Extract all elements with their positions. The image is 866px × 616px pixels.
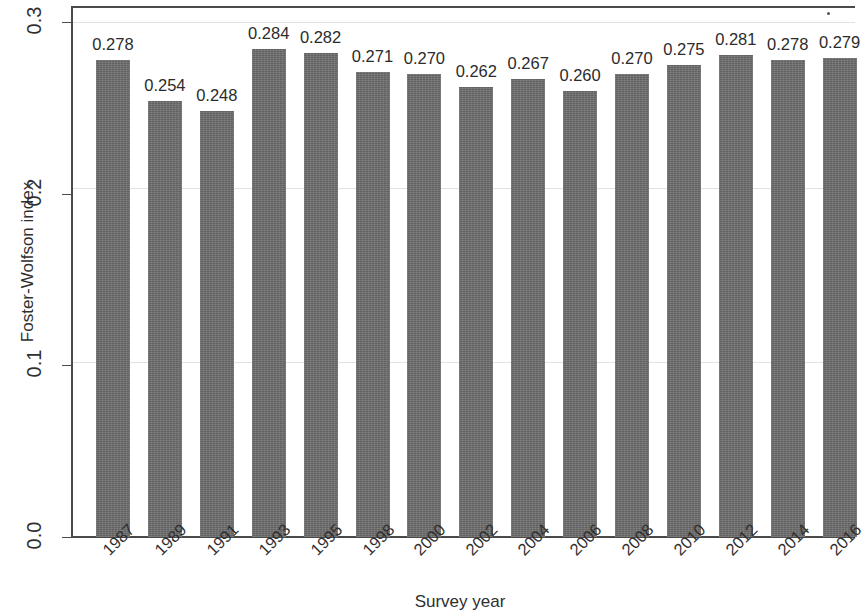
bar-1987 xyxy=(96,60,130,537)
bar-2004 xyxy=(511,79,545,537)
y-tick-0.0 xyxy=(62,537,71,538)
bar-1998 xyxy=(356,72,390,537)
y-tick-label-0.0: 0.0 xyxy=(23,518,46,554)
x-axis-title: Survey year xyxy=(360,592,560,612)
bar-value-label-2006: 0.260 xyxy=(545,66,615,85)
bar-2000 xyxy=(407,74,441,538)
bar-1995 xyxy=(304,53,338,537)
y-tick-0.1 xyxy=(62,365,71,366)
bar-1989 xyxy=(148,101,182,537)
bar-value-label-2016: 0.279 xyxy=(805,33,866,52)
y-axis-title: Foster-Wolfson index xyxy=(18,142,38,382)
bar-2006 xyxy=(563,91,597,537)
bar-value-label-1987: 0.278 xyxy=(78,35,148,54)
bar-value-label-1991: 0.248 xyxy=(182,86,252,105)
bar-2014 xyxy=(771,60,805,537)
bar-1993 xyxy=(252,49,286,537)
bar-2016 xyxy=(823,58,857,537)
bar-2012 xyxy=(719,55,753,537)
bar-2010 xyxy=(667,65,701,537)
bar-value-label-1995: 0.282 xyxy=(286,28,356,47)
y-tick-0.2 xyxy=(62,194,71,195)
bar-2008 xyxy=(615,74,649,538)
y-tick-label-0.3: 0.3 xyxy=(23,3,46,39)
scan-speck xyxy=(827,12,830,15)
y-tick-0.3 xyxy=(62,22,71,23)
bar-1991 xyxy=(200,111,234,537)
bar-2002 xyxy=(459,87,493,537)
